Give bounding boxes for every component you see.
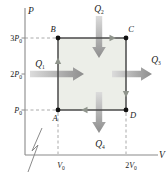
vertex-label-d: D: [129, 110, 137, 120]
vertex-label-a: A: [51, 113, 58, 123]
heat-label-q2: Q2: [94, 4, 104, 15]
tick-label-2v0: 2V0: [125, 161, 137, 171]
vertex-dot-b: [56, 36, 61, 41]
vertex-dot-d: [124, 108, 129, 113]
pv-cycle-diagram: P V 3P0 2P0 P0 V0 2V0 B C A D Q1 Q2 Q3 Q…: [0, 0, 167, 182]
tick-label-p0: P0: [13, 106, 22, 116]
heat-arrow-q1: [30, 67, 84, 81]
vertex-dot-a: [56, 108, 61, 113]
vertex-dot-c: [124, 36, 129, 41]
tick-label-3p0: 3P0: [10, 34, 22, 44]
tick-label-2p0: 2P0: [10, 70, 22, 80]
p-axis-label: P: [27, 6, 34, 16]
vertex-label-c: C: [128, 24, 134, 34]
heat-label-q1: Q1: [35, 59, 45, 70]
heat-label-q3: Q3: [151, 55, 161, 66]
heat-label-q4: Q4: [95, 139, 105, 150]
tick-label-v0: V0: [57, 161, 65, 171]
v-axis-label: V: [159, 150, 166, 160]
vertex-label-b: B: [50, 24, 55, 34]
axis-break-zigzag: [28, 128, 42, 172]
